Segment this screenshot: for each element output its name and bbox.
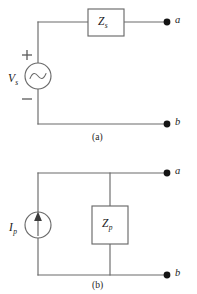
panel-a-circuit [22,9,170,127]
caption-panel-b: (b) [92,281,103,291]
parallel-impedance-label: Zp [102,218,112,230]
series-impedance-symbol: Z [98,15,104,27]
voltage-source-symbol: V [8,72,15,84]
series-impedance-label: Zs [98,16,107,28]
polarity-plus-mark [22,50,32,60]
voltage-source-subscript: s [15,78,18,87]
terminal-dot-a-panel-a [164,19,171,26]
terminal-label-a-panel-b: a [175,166,180,177]
panel-b-circuit [25,170,170,279]
circuit-diagram-canvas [0,0,197,294]
current-source-label: Ip [9,218,17,234]
parallel-impedance-symbol: Z [102,217,108,229]
terminal-dot-b-panel-a [164,121,171,128]
caption-panel-a: (a) [92,133,103,143]
terminal-dot-a-panel-b [164,170,171,177]
figure-root: Zs Vs a b (a) Zp Ip a b (b) [0,0,197,294]
terminal-label-b-panel-a: b [175,117,180,128]
terminal-dot-b-panel-b [164,272,171,279]
current-source-subscript: p [13,227,17,236]
voltage-source-label: Vs [8,69,18,85]
parallel-impedance-subscript: p [109,223,113,232]
series-impedance-subscript: s [105,21,108,30]
terminal-label-a-panel-a: a [175,15,180,26]
terminal-label-b-panel-b: b [175,268,180,279]
